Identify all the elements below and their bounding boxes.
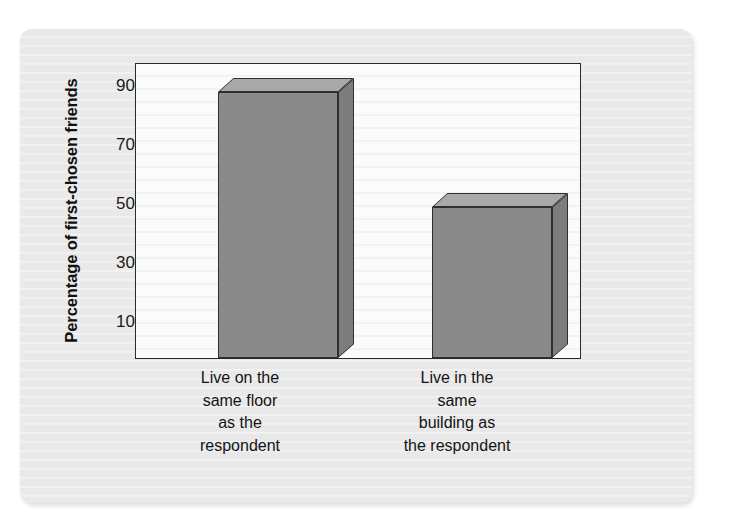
y-axis-tick-labels: 90 70 50 30 10: [93, 63, 135, 359]
category-label-1-line-3: as the: [150, 412, 330, 435]
y-tick-label-70: 70: [93, 135, 135, 152]
bar-2-front-face: [432, 207, 552, 358]
bar-group-2[interactable]: [432, 193, 570, 358]
category-label-1-line-4: respondent: [150, 435, 330, 458]
category-label-2-line-2: same: [364, 390, 550, 413]
y-tick-label-10: 10: [93, 313, 135, 330]
bar-1-top-face: [218, 78, 354, 92]
bar-1-front-face: [218, 92, 338, 358]
category-label-2-line-3: building as: [364, 412, 550, 435]
bar-2-side-face: [552, 193, 568, 358]
category-label-2-line-4: the respondent: [364, 435, 550, 458]
figure-panel: Percentage of first-chosen friends 90 70…: [20, 29, 692, 503]
category-label-1: Live on the same floor as the respondent: [150, 367, 330, 458]
category-label-1-line-1: Live on the: [150, 367, 330, 390]
y-tick-label-50: 50: [93, 195, 135, 212]
category-label-1-line-2: same floor: [150, 390, 330, 413]
category-label-2: Live in the same building as the respond…: [364, 367, 550, 458]
bar-1-side-face: [338, 78, 354, 358]
y-tick-label-30: 30: [93, 254, 135, 271]
y-axis-title: Percentage of first-chosen friends: [62, 56, 81, 366]
bar-2-top-face: [432, 193, 568, 207]
plot-area: [135, 63, 581, 359]
category-label-2-line-1: Live in the: [364, 367, 550, 390]
bar-group-1[interactable]: [218, 78, 356, 358]
y-tick-label-90: 90: [93, 76, 135, 93]
